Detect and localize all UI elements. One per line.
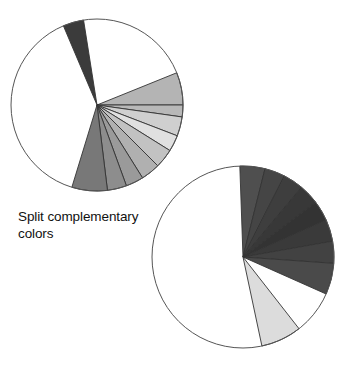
upper-left-color-wheel [11,19,183,191]
split-complementary-color-wheels-diagram [0,0,342,365]
lower-right-color-wheel [152,166,334,348]
figure-root: Split complementary colors [0,0,342,365]
caption-label: Split complementary colors [18,208,168,242]
pie-wedge-light-gray-1 [97,73,183,105]
pie-wedge-dark-accent [63,20,97,105]
